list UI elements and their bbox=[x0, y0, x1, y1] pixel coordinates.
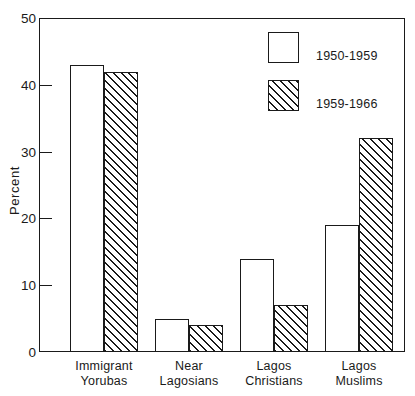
legend-label-1959-1966: 1959-1966 bbox=[316, 97, 378, 111]
y-tick-label-30: 30 bbox=[0, 144, 36, 159]
x-axis-label-line-1: Lagos bbox=[299, 359, 415, 374]
y-tick-mark-40 bbox=[39, 85, 52, 86]
bar-lagos-christians-1950-1959 bbox=[240, 259, 274, 353]
y-tick-mark-10 bbox=[39, 285, 52, 286]
bar-near-lagosians-1950-1959 bbox=[155, 319, 189, 352]
legend-label-1950-1959: 1950-1959 bbox=[316, 49, 378, 63]
bar-lagos-muslims-1950-1959 bbox=[325, 225, 359, 352]
x-axis-label-line-2: Muslims bbox=[299, 374, 415, 389]
legend-swatch-1959-1966 bbox=[268, 80, 299, 111]
bar-near-lagosians-1959-1966 bbox=[189, 325, 223, 352]
bar-immigrant-yorubas-1950-1959 bbox=[70, 65, 104, 352]
bar-chart: Percent 50 40 30 20 10 0 Immigrant Yorub… bbox=[0, 0, 415, 396]
bar-immigrant-yorubas-1959-1966 bbox=[104, 72, 138, 353]
y-tick-mark-30 bbox=[39, 152, 52, 153]
y-tick-label-50: 50 bbox=[0, 11, 36, 26]
legend-swatch-1950-1959 bbox=[268, 32, 299, 63]
y-tick-label-10: 10 bbox=[0, 278, 36, 293]
y-tick-label-0: 0 bbox=[0, 345, 36, 360]
x-axis-label-lagos-muslims: Lagos Muslims bbox=[299, 359, 415, 389]
y-tick-label-40: 40 bbox=[0, 77, 36, 92]
y-tick-mark-20 bbox=[39, 218, 52, 219]
bar-lagos-muslims-1959-1966 bbox=[359, 138, 393, 352]
bar-lagos-christians-1959-1966 bbox=[274, 305, 308, 352]
y-tick-label-20: 20 bbox=[0, 211, 36, 226]
